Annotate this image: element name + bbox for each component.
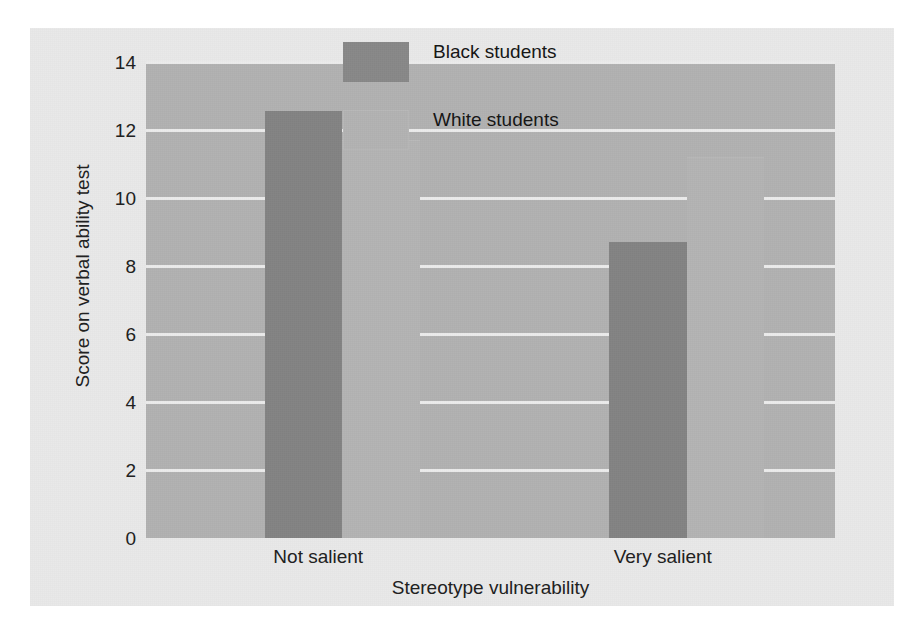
gridline	[146, 401, 265, 404]
gridline	[146, 333, 265, 336]
gridline	[764, 265, 835, 268]
y-tick-label: 0	[96, 529, 136, 548]
gridline	[420, 333, 609, 336]
gridline	[146, 469, 265, 472]
gridline	[420, 265, 609, 268]
bar-black-students-not-salient	[265, 111, 343, 538]
x-tick-label: Not salient	[273, 546, 363, 568]
x-tick-label: Very salient	[614, 546, 712, 568]
gridline	[764, 333, 835, 336]
chart-page: 02468101214 Not salientVery salient Ster…	[0, 0, 924, 636]
y-tick-label: 8	[96, 257, 136, 276]
bar-white-students-very-salient	[687, 157, 765, 538]
y-tick-label: 12	[96, 121, 136, 140]
gridline	[420, 197, 687, 200]
figure-panel: 02468101214 Not salientVery salient Ster…	[30, 28, 894, 606]
gridline	[764, 197, 835, 200]
legend-swatch-icon-white-students	[343, 110, 409, 150]
bar-black-students-very-salient	[609, 242, 687, 538]
bar-white-students-not-salient	[342, 140, 420, 538]
legend-swatch-icon-black-students	[343, 42, 409, 82]
gridline	[420, 401, 609, 404]
gridline	[764, 469, 835, 472]
gridline	[420, 469, 609, 472]
y-axis-ticks: 02468101214	[96, 62, 136, 538]
legend-item-black-students: Black students	[343, 40, 603, 82]
y-tick-label: 10	[96, 189, 136, 208]
y-tick-label: 6	[96, 325, 136, 344]
gridline	[764, 401, 835, 404]
gridline	[146, 129, 265, 132]
chart-legend: Black students White students	[343, 40, 603, 176]
legend-item-white-students: White students	[343, 108, 603, 150]
legend-label-white-students: White students	[433, 108, 559, 131]
x-axis-title: Stereotype vulnerability	[146, 577, 835, 599]
x-axis-ticks: Not salientVery salient	[146, 546, 835, 572]
y-tick-label: 14	[96, 53, 136, 72]
y-tick-label: 2	[96, 461, 136, 480]
legend-label-black-students: Black students	[433, 40, 557, 63]
gridline	[146, 197, 265, 200]
gridline	[146, 265, 265, 268]
y-tick-label: 4	[96, 393, 136, 412]
y-axis-title: Score on verbal ability test	[72, 38, 94, 514]
